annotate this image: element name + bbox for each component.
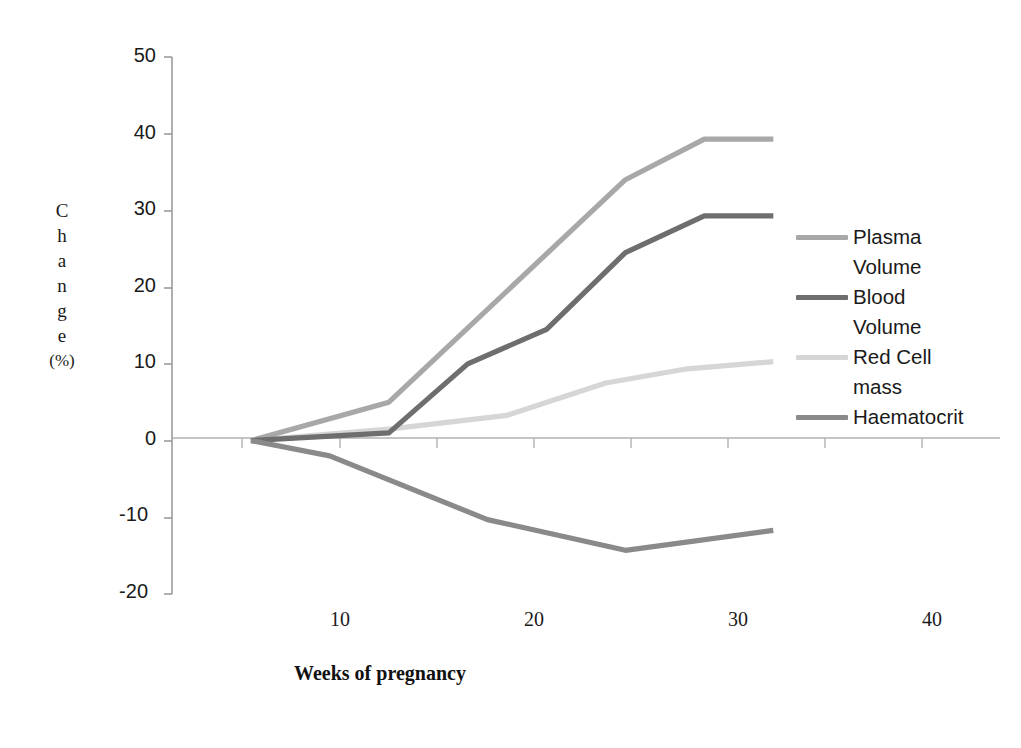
series-line-red-cell-mass	[251, 362, 773, 441]
legend-label-blood-volume: Blood Volume	[853, 282, 1021, 342]
chart-container: C h a n g e (%) 50 40 30 20 10 0 -10 -20…	[0, 0, 1021, 748]
legend-label-haematocrit: Haematocrit	[853, 402, 1021, 432]
chart-legend: Plasma Volume Blood Volume Red Cell mass…	[796, 222, 1021, 434]
series-line-blood-volume	[251, 216, 773, 441]
y-axis-ticks	[164, 57, 172, 594]
legend-label-plasma-volume: Plasma Volume	[853, 222, 1021, 282]
series-line-haematocrit	[251, 441, 773, 551]
data-series-group	[251, 139, 773, 550]
series-line-plasma-volume	[251, 139, 773, 441]
legend-swatch-plasma-volume	[796, 235, 848, 240]
legend-swatch-blood-volume	[796, 295, 848, 300]
legend-item-haematocrit[interactable]: Haematocrit	[796, 402, 1021, 434]
x-axis-ticks	[242, 438, 922, 448]
legend-swatch-red-cell-mass	[796, 355, 848, 360]
legend-item-plasma-volume[interactable]: Plasma Volume	[796, 222, 1021, 282]
legend-swatch-haematocrit	[796, 415, 848, 420]
legend-item-red-cell-mass[interactable]: Red Cell mass	[796, 342, 1021, 402]
legend-item-blood-volume[interactable]: Blood Volume	[796, 282, 1021, 342]
legend-label-red-cell-mass: Red Cell mass	[853, 342, 1021, 402]
